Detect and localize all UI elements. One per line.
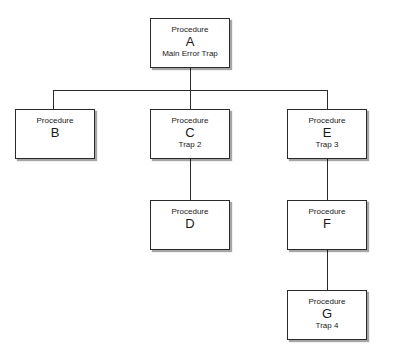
node-letter: C: [185, 126, 194, 140]
node-procedure-d: Procedure D: [150, 200, 230, 250]
node-letter: D: [185, 217, 194, 231]
edge-a-down: [190, 68, 191, 91]
node-subtitle: Main Error Trap: [162, 49, 218, 59]
node-subtitle: Trap 2: [179, 140, 202, 150]
edge-c-to-d: [190, 159, 191, 200]
edge-bus-to-c: [190, 90, 191, 109]
edge-bus-to-b: [53, 90, 54, 109]
node-letter: F: [323, 217, 331, 231]
node-procedure-f: Procedure F: [287, 200, 367, 250]
edge-f-to-g: [327, 250, 328, 290]
node-procedure-e: Procedure E Trap 3: [287, 109, 367, 159]
node-procedure-c: Procedure C Trap 2: [150, 109, 230, 159]
node-procedure-b: Procedure B: [15, 109, 95, 159]
node-procedure-a: Procedure A Main Error Trap: [150, 18, 230, 68]
node-letter: E: [323, 126, 332, 140]
node-subtitle: Trap 3: [316, 140, 339, 150]
node-letter: B: [51, 126, 60, 140]
node-procedure-g: Procedure G Trap 4: [287, 290, 367, 340]
edge-e-to-f: [327, 159, 328, 200]
edge-bus-to-e: [327, 90, 328, 109]
node-letter: G: [322, 307, 332, 321]
node-letter: A: [186, 35, 195, 49]
node-subtitle: Trap 4: [316, 321, 339, 331]
